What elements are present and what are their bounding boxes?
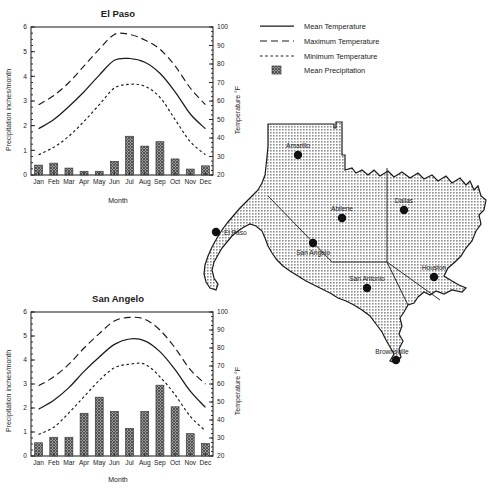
city-dot — [309, 239, 317, 247]
map-city-el-paso: El Paso — [212, 228, 247, 236]
y2-tick-label: 40 — [217, 416, 225, 423]
y-tick-label: 2 — [23, 404, 27, 411]
y-tick-label: 0 — [23, 171, 27, 178]
y2-tick-label: 80 — [217, 344, 225, 351]
city-label: Abilene — [331, 205, 353, 212]
precipitation-bar — [126, 428, 134, 456]
x-tick-label: Jan — [33, 178, 44, 185]
precipitation-bar — [95, 397, 103, 456]
x-tick-label: Apr — [79, 178, 90, 186]
x-tick-label: Feb — [48, 459, 60, 466]
y2-tick-label: 80 — [217, 60, 225, 67]
city-label: Houston — [422, 264, 447, 271]
maximum-temperature-line — [39, 33, 206, 105]
precipitation-bar — [141, 146, 149, 175]
city-dot — [392, 356, 400, 364]
city-label: El Paso — [224, 229, 247, 236]
x-tick-label: Oct — [170, 178, 180, 185]
plot-frame — [31, 27, 213, 175]
x-tick-label: Jan — [33, 459, 44, 466]
minimum-temperature-line — [39, 363, 206, 434]
y-tick-label: 4 — [23, 73, 27, 80]
precipitation-bar — [156, 142, 164, 175]
city-dot — [363, 284, 371, 292]
y2-tick-label: 50 — [217, 398, 225, 405]
y-axis-label: Precipitation inches/month — [5, 350, 13, 432]
y-tick-label: 4 — [23, 356, 27, 363]
precipitation-bar — [156, 385, 164, 456]
y2-tick-label: 20 — [217, 452, 225, 459]
precipitation-bar — [126, 136, 134, 175]
y-tick-label: 1 — [23, 147, 27, 154]
city-label: Dallas — [395, 197, 414, 204]
chart-title: El Paso — [101, 8, 136, 19]
y-axis-label: Precipitation inches/month — [5, 69, 13, 151]
city-dot — [338, 214, 346, 222]
mean-temperature-line — [39, 58, 206, 129]
x-tick-label: Apr — [79, 459, 90, 467]
x-tick-label: Jul — [125, 178, 134, 185]
maximum-temperature-line — [39, 317, 206, 386]
y-tick-label: 0 — [23, 452, 27, 459]
x-tick-label: May — [93, 178, 106, 186]
y-tick-label: 3 — [23, 97, 27, 104]
chart-legend: Mean Temperature Maximum Temperature Min… — [258, 18, 438, 76]
city-label: San Antonio — [349, 275, 385, 282]
x-tick-label: Nov — [184, 178, 196, 185]
mean-temperature-line — [39, 339, 206, 409]
x-tick-label: Mar — [63, 178, 75, 185]
y2-tick-label: 30 — [217, 434, 225, 441]
y2-tick-label: 100 — [217, 23, 228, 30]
legend-item-mean-precipitation: Mean Precipitation — [272, 66, 365, 75]
precipitation-bar — [186, 434, 194, 456]
x-tick-label: Aug — [139, 178, 151, 186]
y-tick-label: 1 — [23, 428, 27, 435]
legend-swatch-hatched-square — [272, 66, 281, 74]
city-label: Amarillo — [286, 142, 310, 149]
city-dot — [294, 151, 302, 159]
city-label: San Angelo — [296, 249, 330, 257]
y2-tick-label: 90 — [217, 326, 225, 333]
y2-tick-label: 100 — [217, 308, 228, 315]
legend-label: Maximum Temperature — [304, 37, 379, 46]
x-tick-label: May — [93, 459, 106, 467]
x-tick-label: Sep — [154, 178, 166, 186]
city-label: Brownsville — [375, 348, 409, 355]
x-tick-label: Jun — [109, 459, 120, 466]
precipitation-bar — [110, 412, 118, 456]
x-axis-label: Month — [108, 197, 128, 204]
minimum-temperature-line — [39, 84, 206, 155]
x-tick-label: Feb — [48, 178, 60, 185]
x-tick-label: Nov — [184, 459, 196, 466]
y-tick-label: 5 — [23, 332, 27, 339]
x-tick-label: Jul — [125, 459, 134, 466]
y-tick-label: 6 — [23, 308, 27, 315]
legend-label: Mean Precipitation — [304, 66, 365, 75]
y2-tick-label: 70 — [217, 79, 225, 86]
y-tick-label: 3 — [23, 380, 27, 387]
precipitation-bar — [171, 407, 179, 456]
x-tick-label: Sep — [154, 459, 166, 467]
y2-tick-label: 90 — [217, 42, 225, 49]
x-tick-label: Jun — [109, 178, 120, 185]
chart-san-angelo: San Angelo 01234562030405060708090100Jan… — [0, 286, 248, 488]
y2-axis-label: Temperature °F — [234, 367, 242, 415]
legend-label: Mean Temperature — [304, 22, 366, 31]
chart-title: San Angelo — [92, 293, 144, 304]
legend-item-mean-temperature: Mean Temperature — [260, 22, 366, 31]
city-dot — [400, 206, 408, 214]
x-tick-label: Aug — [139, 459, 151, 467]
legend-item-minimum-temperature: Minimum Temperature — [260, 52, 377, 61]
y-tick-label: 6 — [23, 23, 27, 30]
x-axis-label: Month — [108, 476, 128, 483]
precipitation-bar — [141, 412, 149, 456]
x-tick-label: Dec — [200, 459, 212, 466]
city-dot — [430, 273, 438, 281]
y2-tick-label: 70 — [217, 362, 225, 369]
x-tick-label: Oct — [170, 459, 180, 466]
legend-label: Minimum Temperature — [304, 52, 377, 61]
city-dot — [212, 228, 220, 236]
precipitation-bar — [80, 413, 88, 456]
y2-tick-label: 60 — [217, 380, 225, 387]
x-tick-label: Mar — [63, 459, 75, 466]
